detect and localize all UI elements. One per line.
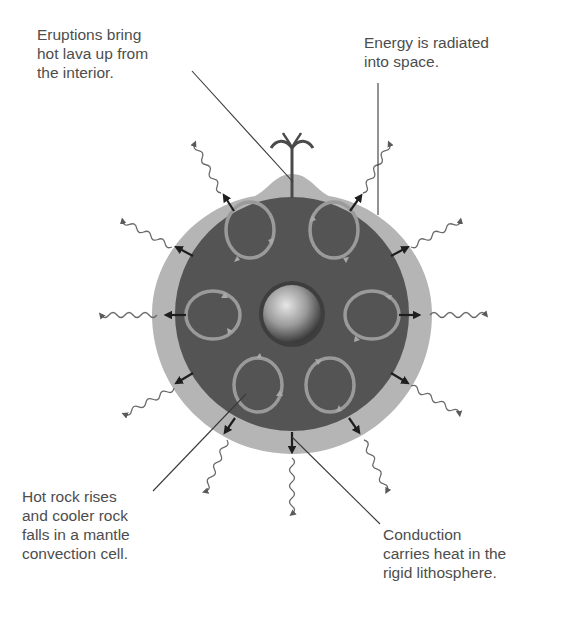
conduction-label: Conduction carries heat in the rigid lit… — [383, 525, 506, 582]
radiation-label: Energy is radiated into space. — [364, 33, 489, 71]
convection-cell-label: Hot rock rises and cooler rock falls in … — [22, 487, 130, 563]
eruptions-label: Eruptions bring hot lava up from the int… — [37, 25, 148, 82]
core — [259, 281, 325, 347]
